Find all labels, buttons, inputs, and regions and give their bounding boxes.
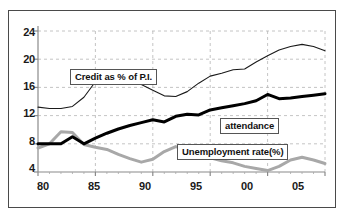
figure-canvas: 24 20 16 12 8 4 80 85 90 95 00 05 Credit… [0, 0, 346, 219]
line-chart-plot [9, 11, 334, 206]
y-tick-label-20: 20 [13, 53, 35, 65]
y-tick-label-16: 16 [13, 80, 35, 92]
series-callout-credit: Credit as % of P.I. [70, 69, 157, 85]
x-tick-label-85: 85 [82, 180, 106, 192]
x-tick-label-00: 00 [235, 180, 259, 192]
y-tick-label-24: 24 [13, 26, 35, 38]
series-callout-attendance: attendance [220, 118, 279, 134]
y-tick-label-8: 8 [13, 135, 35, 147]
x-tick-label-80: 80 [31, 180, 55, 192]
x-tick-label-05: 05 [286, 180, 310, 192]
series-callout-unemployment: Unemployment rate(%) [177, 144, 288, 160]
y-tick-label-12: 12 [13, 107, 35, 119]
series-line-1 [38, 94, 325, 144]
chart-frame: 24 20 16 12 8 4 80 85 90 95 00 05 Credit… [8, 10, 336, 208]
x-tick-label-90: 90 [133, 180, 157, 192]
y-tick-label-4: 4 [13, 162, 35, 174]
x-tick-label-95: 95 [184, 180, 208, 192]
